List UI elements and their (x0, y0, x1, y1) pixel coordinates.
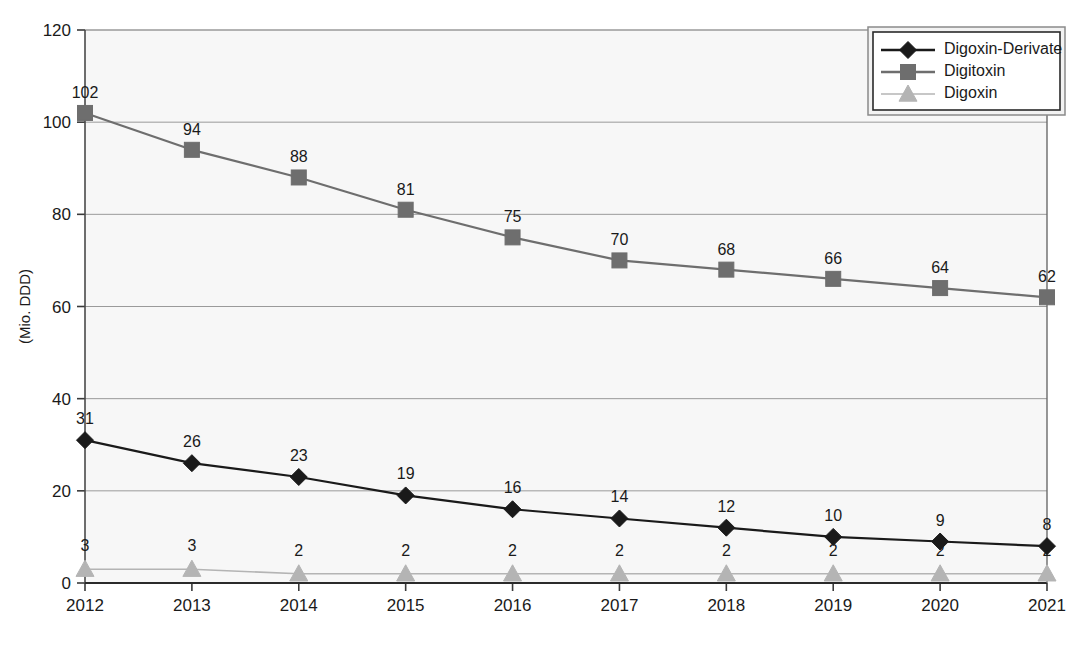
data-label: 94 (183, 121, 201, 138)
chart-container: 020406080100120 201220132014201520162017… (0, 0, 1072, 646)
data-point-marker (933, 281, 948, 296)
data-label: 2 (1043, 542, 1052, 559)
data-label: 2 (508, 542, 517, 559)
data-label: 81 (397, 181, 415, 198)
y-tick-label: 60 (52, 298, 71, 317)
data-point-marker (612, 253, 627, 268)
legend-label: Digoxin (944, 84, 997, 101)
x-tick-label: 2012 (66, 596, 104, 615)
y-tick-label: 20 (52, 482, 71, 501)
data-label: 2 (294, 542, 303, 559)
data-label: 66 (824, 250, 842, 267)
data-point-marker (291, 170, 306, 185)
y-tick-label: 40 (52, 390, 71, 409)
data-label: 2 (722, 542, 731, 559)
x-tick-label: 2018 (707, 596, 745, 615)
data-label: 31 (76, 410, 94, 427)
data-label: 12 (717, 498, 735, 515)
data-point-marker (505, 230, 520, 245)
data-label: 88 (290, 148, 308, 165)
data-point-marker (1040, 290, 1055, 305)
y-tick-label: 100 (43, 113, 71, 132)
y-axis-title-text: (Mio. DDD) (16, 269, 33, 344)
y-tick-label: 80 (52, 205, 71, 224)
data-label: 8 (1043, 516, 1052, 533)
data-label: 10 (824, 507, 842, 524)
line-chart: 020406080100120 201220132014201520162017… (0, 0, 1072, 646)
data-point-marker (719, 262, 734, 277)
data-label: 2 (936, 542, 945, 559)
data-label: 2 (401, 542, 410, 559)
data-label: 68 (717, 241, 735, 258)
data-label: 26 (183, 433, 201, 450)
x-tick-label: 2016 (494, 596, 532, 615)
data-label: 70 (611, 231, 629, 248)
x-tick-label: 2015 (387, 596, 425, 615)
legend-item-digoxin-derivate[interactable]: Digoxin-Derivate (881, 40, 1062, 58)
data-label: 64 (931, 259, 949, 276)
x-tick-label: 2013 (173, 596, 211, 615)
x-tick-label: 2020 (921, 596, 959, 615)
legend-label: Digitoxin (944, 62, 1005, 79)
legend-label: Digoxin-Derivate (944, 40, 1062, 57)
legend: Digoxin-DerivateDigitoxinDigoxin (868, 27, 1065, 115)
x-tick-label: 2021 (1028, 596, 1066, 615)
data-label: 16 (504, 479, 522, 496)
data-label: 14 (611, 488, 629, 505)
y-tick-label: 0 (62, 574, 71, 593)
data-point-marker (78, 105, 93, 120)
x-tick-label: 2014 (280, 596, 318, 615)
data-label: 3 (187, 537, 196, 554)
y-tick-label: 120 (43, 21, 71, 40)
data-label: 19 (397, 465, 415, 482)
data-point-marker (398, 202, 413, 217)
x-tick-label: 2017 (601, 596, 639, 615)
data-label: 23 (290, 447, 308, 464)
data-point-marker (826, 271, 841, 286)
x-tick-label: 2019 (814, 596, 852, 615)
data-label: 9 (936, 512, 945, 529)
data-label: 75 (504, 208, 522, 225)
data-label: 3 (81, 537, 90, 554)
data-label: 2 (615, 542, 624, 559)
data-point-marker (901, 65, 916, 80)
y-axis-title: (Mio. DDD) (16, 269, 33, 344)
data-label: 102 (72, 84, 99, 101)
data-label: 2 (829, 542, 838, 559)
data-point-marker (184, 142, 199, 157)
data-label: 62 (1038, 268, 1056, 285)
